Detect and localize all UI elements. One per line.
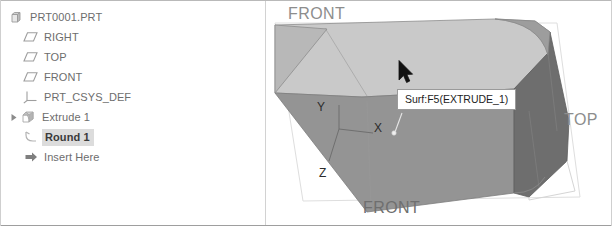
axis-label-z: Z xyxy=(319,166,326,180)
extrude-feature-icon xyxy=(20,109,38,125)
tree-item-label: Extrude 1 xyxy=(42,110,90,124)
tree-item-label: PRT_CSYS_DEF xyxy=(44,90,131,104)
datum-tag-top-right[interactable]: TOP xyxy=(564,111,598,129)
tree-item-datum-right[interactable]: RIGHT xyxy=(1,27,265,47)
tree-item-label: PRT0001.PRT xyxy=(30,10,102,24)
tree-item-label: Round 1 xyxy=(42,129,94,146)
tree-item-label: TOP xyxy=(44,50,67,64)
tree-item-datum-front[interactable]: FRONT xyxy=(1,67,265,87)
part-icon xyxy=(8,9,26,25)
datum-plane-icon xyxy=(22,29,40,45)
datum-plane-icon xyxy=(22,49,40,65)
datum-tag-front-bottom[interactable]: FRONT xyxy=(363,199,420,217)
model-tree-panel: PRT0001.PRT RIGHT TOP xyxy=(1,1,265,225)
tree-item-label: Insert Here xyxy=(44,150,100,164)
datum-tag-front-top[interactable]: FRONT xyxy=(288,5,345,23)
panel-divider[interactable] xyxy=(265,1,266,225)
tree-item-label: FRONT xyxy=(44,70,82,84)
tree-item-extrude-1[interactable]: Extrude 1 xyxy=(1,107,265,127)
tree-item-datum-top[interactable]: TOP xyxy=(1,47,265,67)
expand-arrow-icon[interactable] xyxy=(8,107,20,127)
datum-plane-icon xyxy=(22,69,40,85)
tree-item-coordinate-system[interactable]: PRT_CSYS_DEF xyxy=(1,87,265,107)
tree-item-part[interactable]: PRT0001.PRT xyxy=(1,7,265,27)
surface-tooltip: Surf:F5(EXTRUDE_1) xyxy=(397,89,516,110)
window-border-bottom xyxy=(0,225,612,226)
coordinate-system-icon xyxy=(22,89,40,105)
round-feature-icon xyxy=(22,129,40,145)
tree-item-label: RIGHT xyxy=(44,30,79,44)
cad-application-window: PRT0001.PRT RIGHT TOP xyxy=(0,0,612,226)
tree-item-insert-here[interactable]: Insert Here xyxy=(1,147,265,167)
tree-item-round-1[interactable]: Round 1 xyxy=(1,127,265,147)
insert-here-icon xyxy=(22,149,40,165)
axis-label-x: X xyxy=(374,121,382,135)
axis-label-y: Y xyxy=(317,100,325,114)
picked-point-marker xyxy=(392,131,396,135)
graphics-viewport[interactable]: FRONT TOP FRONT Y X Z Surf:F5(EXTRUDE_1) xyxy=(267,1,611,225)
